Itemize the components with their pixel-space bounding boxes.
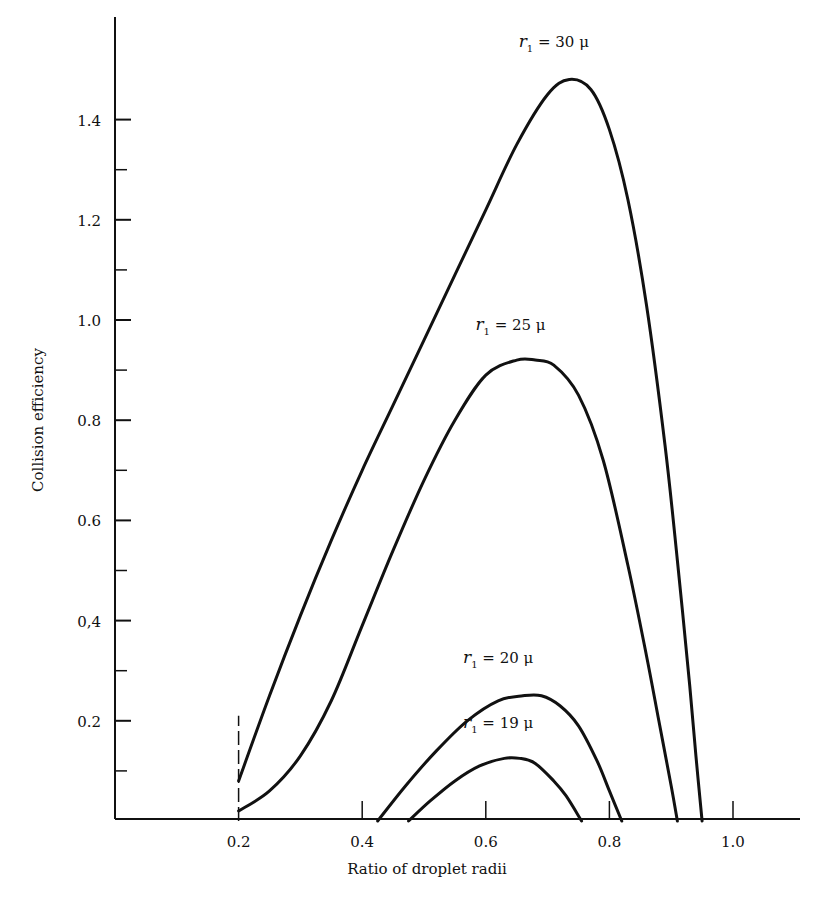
x-ticks: 0.20.40.60.81.0 — [227, 801, 745, 851]
x-tick-label: 0.2 — [227, 833, 251, 851]
y-tick-label: 0.6 — [77, 512, 101, 530]
collision-efficiency-chart: 0.20.40.60.81.0 0.20,40.60.81.01.21.4 r1… — [0, 0, 824, 898]
x-tick-label: 0.4 — [350, 833, 374, 851]
y-ticks: 0.20,40.60.81.01.21.4 — [77, 112, 131, 771]
y-tick-label: 0.2 — [77, 713, 101, 731]
curve-label: r1 = 30 μ — [519, 31, 589, 54]
y-tick-label: 1.2 — [77, 212, 101, 230]
curves — [239, 79, 702, 821]
x-tick-label: 0.6 — [474, 833, 498, 851]
x-tick-label: 0.8 — [597, 833, 621, 851]
y-tick-label: 1.0 — [77, 312, 101, 330]
curve-series-1 — [239, 359, 678, 821]
y-axis-label: Collision efficiency — [29, 348, 47, 492]
y-tick-label: 1.4 — [77, 112, 101, 130]
y-tick-label: 0.8 — [77, 412, 101, 430]
curve-label: r1 = 20 μ — [463, 647, 533, 670]
x-tick-label: 1.0 — [721, 833, 745, 851]
curve-series-0 — [239, 79, 702, 821]
y-tick-label: 0,4 — [77, 613, 101, 631]
curve-series-3 — [409, 758, 582, 821]
curve-label: r1 = 25 μ — [475, 314, 545, 337]
x-axis-label: Ratio of droplet radii — [347, 860, 507, 878]
